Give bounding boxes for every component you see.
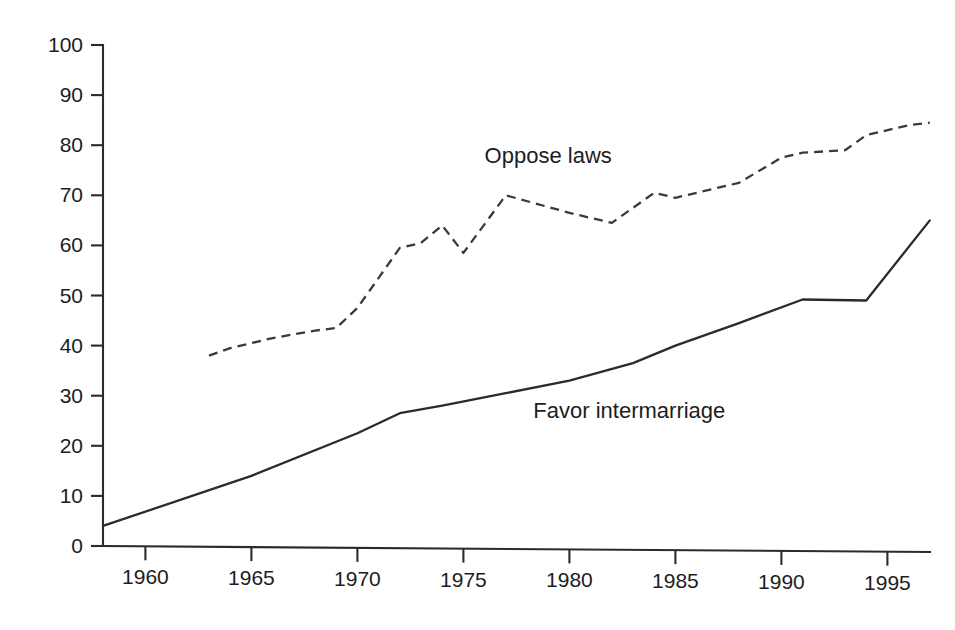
- y-tick-label: 100: [48, 33, 83, 56]
- x-tick-label: 1980: [546, 568, 593, 591]
- x-tick-label: 1975: [440, 568, 487, 591]
- x-tick-label: 1965: [228, 566, 275, 589]
- y-axis-ticks: 0102030405060708090100: [48, 33, 103, 557]
- y-tick-label: 30: [60, 384, 83, 407]
- x-axis-ticks: 19601965197019751980198519901995: [122, 546, 911, 593]
- y-tick-label: 50: [60, 284, 83, 307]
- chart-container: 0102030405060708090100 19601965197019751…: [0, 0, 955, 630]
- line-chart: 0102030405060708090100 19601965197019751…: [0, 0, 955, 630]
- y-tick-label: 80: [60, 133, 83, 156]
- y-tick-label: 0: [71, 534, 83, 557]
- y-tick-label: 20: [60, 434, 83, 457]
- x-tick-label: 1985: [652, 569, 699, 592]
- x-axis-line: [103, 546, 930, 552]
- x-tick-label: 1990: [758, 570, 805, 593]
- y-tick-label: 90: [60, 83, 83, 106]
- y-tick-label: 40: [60, 334, 83, 357]
- y-tick-label: 60: [60, 233, 83, 256]
- series-line-favor-intermarriage: [103, 220, 930, 526]
- x-tick-label: 1995: [864, 571, 911, 594]
- series-label-favor-intermarriage: Favor intermarriage: [533, 398, 725, 423]
- series-label-oppose-laws: Oppose laws: [485, 143, 612, 168]
- y-tick-label: 10: [60, 484, 83, 507]
- x-tick-label: 1970: [334, 567, 381, 590]
- x-tick-label: 1960: [122, 565, 169, 588]
- y-tick-label: 70: [60, 183, 83, 206]
